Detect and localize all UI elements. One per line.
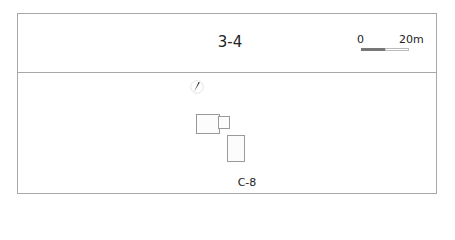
north-arrow-icon (190, 79, 204, 93)
header-divider (17, 72, 437, 73)
site-label: C-8 (232, 176, 262, 189)
scale-segment-dark (361, 48, 385, 51)
building-south (227, 135, 245, 162)
scale-segment-light (385, 48, 409, 51)
map-title: 3-4 (200, 33, 260, 51)
scale-bar: 0 20m (354, 33, 434, 55)
scale-start-label: 0 (357, 33, 364, 46)
building-annex (218, 116, 230, 129)
scale-end-label: 20m (399, 33, 424, 46)
building-main (196, 114, 220, 134)
